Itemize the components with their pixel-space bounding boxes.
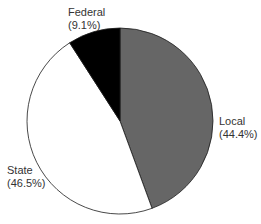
label-state-pct: (46.5%) — [7, 177, 46, 190]
label-federal: Federal (9.1%) — [68, 6, 105, 32]
label-local: Local (44.4%) — [219, 115, 258, 141]
label-federal-name: Federal — [68, 6, 105, 19]
label-state: State (46.5%) — [7, 164, 46, 190]
label-local-pct: (44.4%) — [219, 128, 258, 141]
label-state-name: State — [7, 164, 46, 177]
label-federal-pct: (9.1%) — [68, 19, 105, 32]
label-local-name: Local — [219, 115, 258, 128]
pie-chart — [0, 0, 261, 224]
